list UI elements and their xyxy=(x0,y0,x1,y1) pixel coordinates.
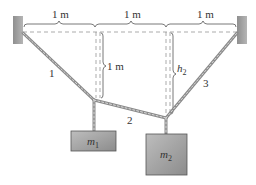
span-1-label: 1 m xyxy=(52,8,69,20)
rope-1-label: 1 xyxy=(49,67,55,79)
left-wall xyxy=(13,16,23,44)
top-dimension-braces xyxy=(24,21,236,27)
h2-label: h2 xyxy=(177,62,187,77)
vertical-1-label: 1 m xyxy=(107,60,124,72)
span-3-label: 1 m xyxy=(197,8,214,20)
rope-2-label: 2 xyxy=(127,114,133,126)
rope-mass-diagram: 1 m 1 m 1 m 1 m h2 1 2 3 xyxy=(0,0,256,185)
rope-3-label: 3 xyxy=(203,77,209,89)
span-2-label: 1 m xyxy=(124,8,141,20)
right-wall xyxy=(237,16,247,44)
vertical-dimension-braces xyxy=(101,33,176,114)
